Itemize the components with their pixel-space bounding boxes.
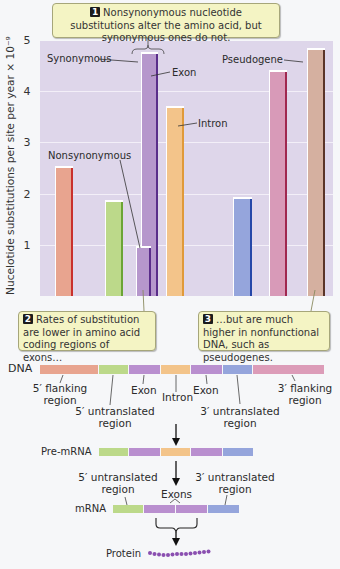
protein-chain-icon bbox=[0, 0, 340, 569]
